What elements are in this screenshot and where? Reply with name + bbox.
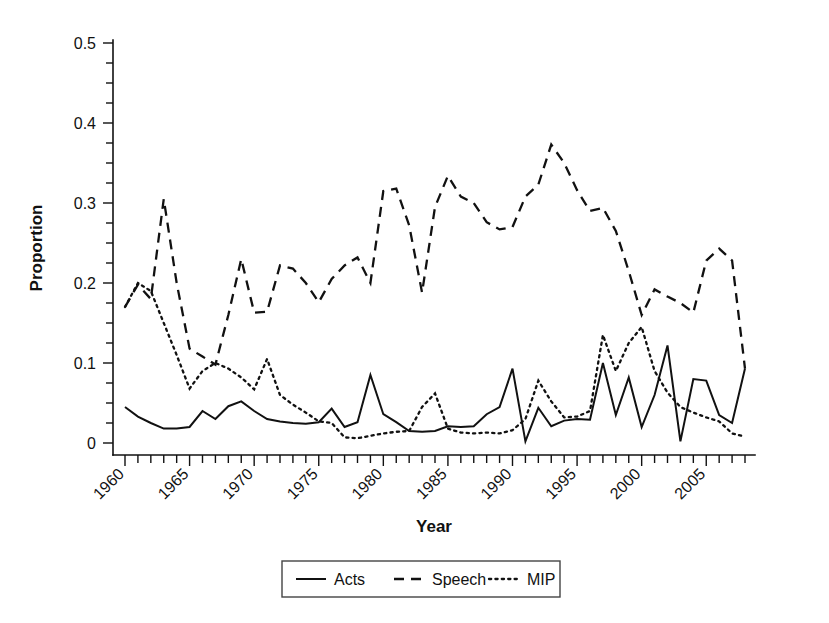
y-tick-label: 0.3 xyxy=(74,195,96,212)
y-axis-title: Proportion xyxy=(27,205,46,292)
line-chart: 00.10.20.30.40.5 19601965197019751980198… xyxy=(0,0,829,623)
legend-label-acts: Acts xyxy=(334,571,365,588)
chart-legend: ActsSpeechMIP xyxy=(282,561,560,597)
y-tick-label: 0.2 xyxy=(74,275,96,292)
chart-background xyxy=(0,0,829,623)
legend-label-mip: MIP xyxy=(527,571,555,588)
legend-label-speech: Speech xyxy=(432,571,486,588)
y-tick-label: 0.1 xyxy=(74,355,96,372)
y-tick-label: 0.5 xyxy=(74,35,96,52)
x-axis-title: Year xyxy=(416,517,452,536)
y-tick-label: 0 xyxy=(87,435,96,452)
y-tick-label: 0.4 xyxy=(74,115,96,132)
